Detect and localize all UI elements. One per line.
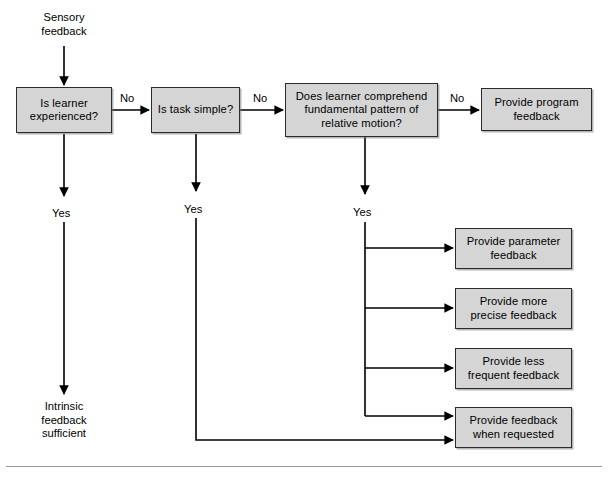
- footer-divider: [6, 466, 602, 467]
- node-is-learner-experienced[interactable]: Is learner experienced?: [16, 87, 112, 133]
- node-provide-more-precise-feedback[interactable]: Provide more precise feedback: [455, 288, 572, 329]
- edge-label-q2-no: No: [253, 92, 267, 104]
- label-sensory-feedback: Sensory feedback: [24, 11, 104, 38]
- node-provide-less-frequent-feedback[interactable]: Provide less frequent feedback: [455, 348, 572, 389]
- edge-label-q2-yes: Yes: [184, 203, 202, 215]
- node-provide-feedback-when-requested[interactable]: Provide feedback when requested: [455, 407, 572, 448]
- edge-label-q3-no: No: [450, 92, 464, 104]
- edge-label-q1-yes: Yes: [52, 207, 70, 219]
- edge-label-q3-yes: Yes: [353, 206, 371, 218]
- edge-q2-yes-to-o5: [196, 218, 453, 440]
- node-is-task-simple[interactable]: Is task simple?: [151, 87, 240, 133]
- node-provide-program-feedback[interactable]: Provide program feedback: [481, 88, 592, 131]
- node-provide-parameter-feedback[interactable]: Provide parameter feedback: [455, 228, 572, 269]
- label-intrinsic-feedback-sufficient: Intrinsic feedback sufficient: [24, 400, 104, 441]
- node-does-learner-comprehend[interactable]: Does learner comprehend fundamental patt…: [285, 83, 438, 137]
- flowchart-canvas: Is learner experienced? Is task simple? …: [0, 0, 608, 478]
- edge-label-q1-no: No: [120, 92, 134, 104]
